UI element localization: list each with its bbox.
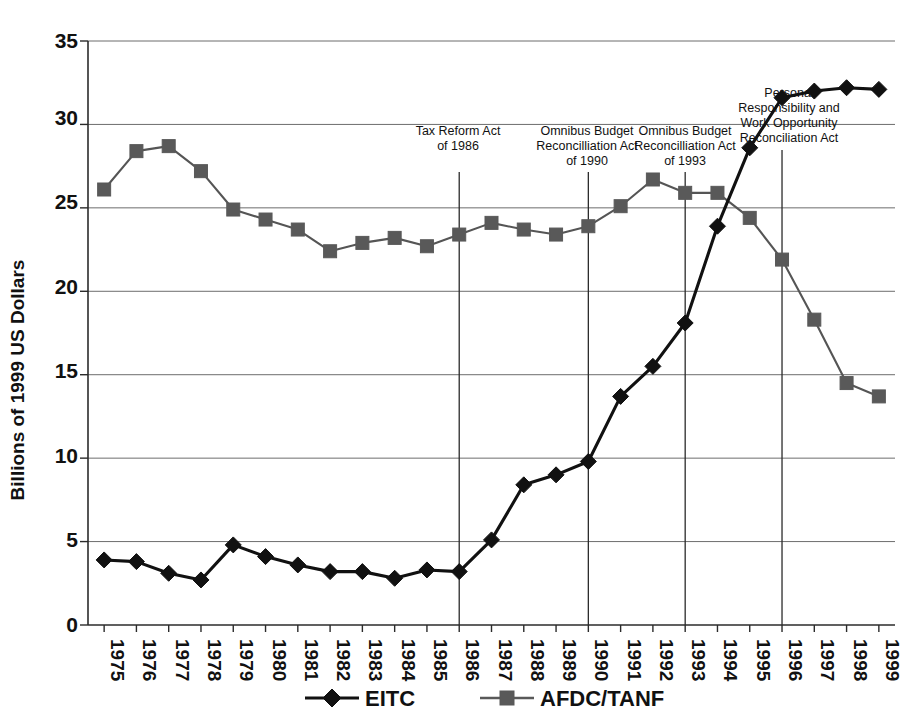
data-point-marker [711, 186, 724, 199]
x-tick-label: 1981 [301, 639, 322, 682]
data-point-marker [420, 240, 433, 253]
y-tick-label: 0 [66, 613, 78, 636]
x-tick-label: 1985 [430, 639, 451, 682]
data-point-marker [485, 216, 498, 229]
data-point-marker [356, 236, 369, 249]
data-point-marker [130, 145, 143, 158]
x-tick-label: 1984 [398, 639, 419, 682]
y-axis-title: Billions of 1999 US Dollars [7, 260, 28, 501]
data-point-marker [453, 228, 466, 241]
y-tick-label: 30 [55, 106, 78, 129]
chart-container: 0 5 10 15 20 25 30 35 Billions of 1999 U… [0, 0, 918, 727]
x-tick-label: 1991 [624, 639, 645, 682]
x-tick-label: 1998 [850, 639, 871, 681]
x-tick-label: 1990 [591, 639, 612, 681]
data-point-marker [194, 165, 207, 178]
x-tick-label: 1988 [527, 639, 548, 681]
legend-label: AFDC/TANF [540, 686, 664, 711]
x-tick-label: 1983 [365, 639, 386, 681]
annotation-line: Work Opportunity [740, 116, 838, 130]
x-tick-label: 1975 [107, 639, 128, 682]
data-point-marker [98, 183, 111, 196]
data-point-marker [259, 213, 272, 226]
y-tick-label: 5 [66, 528, 78, 551]
y-tick-label: 35 [55, 29, 79, 52]
x-tick-label: 1996 [785, 639, 806, 681]
data-point-marker [840, 377, 853, 390]
y-tick-label: 15 [55, 359, 79, 382]
x-tick-label: 1994 [720, 639, 741, 682]
y-tick-label: 25 [55, 190, 79, 213]
x-tick-label: 1982 [333, 639, 354, 681]
y-tick-label: 20 [55, 275, 78, 298]
x-tick-label: 1989 [559, 639, 580, 681]
annotation-line: of 1986 [437, 139, 479, 153]
x-tick-label: 1987 [495, 639, 516, 681]
data-point-marker [324, 245, 337, 258]
x-tick-label: 1977 [172, 639, 193, 681]
annotation-line: Omnibus Budget [540, 124, 634, 138]
data-point-marker [743, 211, 756, 224]
y-tick-label: 10 [55, 444, 78, 467]
legend-marker [500, 691, 514, 705]
data-point-marker [582, 220, 595, 233]
x-tick-label: 1976 [139, 639, 160, 681]
data-point-marker [388, 231, 401, 244]
data-point-marker [517, 223, 530, 236]
data-point-marker [614, 200, 627, 213]
data-point-marker [291, 223, 304, 236]
x-tick-label: 1995 [753, 639, 774, 682]
x-tick-label: 1999 [882, 639, 903, 681]
annotation-line: Tax Reform Act [416, 124, 501, 138]
annotation-line: of 1990 [566, 154, 608, 168]
data-point-marker [679, 186, 692, 199]
x-tick-label: 1978 [204, 639, 225, 681]
x-tick-label: 1993 [688, 639, 709, 681]
data-point-marker [646, 173, 659, 186]
x-tick-label: 1992 [656, 639, 677, 681]
annotation-line: of 1993 [664, 154, 706, 168]
x-tick-label: 1997 [817, 639, 838, 681]
data-point-marker [808, 313, 821, 326]
data-point-marker [872, 390, 885, 403]
data-point-marker [227, 203, 240, 216]
annotation-line: Reconcilliation Act [536, 139, 638, 153]
data-point-marker [550, 228, 563, 241]
x-tick-label: 1980 [269, 639, 290, 681]
data-point-marker [162, 140, 175, 153]
x-tick-label: 1986 [462, 639, 483, 681]
line-chart: 0 5 10 15 20 25 30 35 Billions of 1999 U… [0, 0, 918, 727]
annotation-line: Omnibus Budget [638, 124, 732, 138]
data-point-marker [776, 253, 789, 266]
x-tick-label: 1979 [236, 639, 257, 681]
annotation-line: Reconcilliation Act [634, 139, 736, 153]
annotation-line: Responsibility and [738, 101, 839, 115]
legend-label: EITC [365, 686, 415, 711]
